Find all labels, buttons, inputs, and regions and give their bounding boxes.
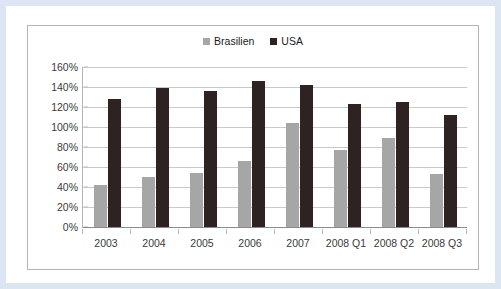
x-axis-tick-mark: [418, 229, 419, 234]
x-axis-tick-mark: [322, 229, 323, 234]
x-axis-tick-label: 2006: [238, 237, 261, 249]
bar-brasilien-2007[interactable]: [286, 123, 299, 227]
x-axis-tick-mark: [370, 229, 371, 234]
x-axis-tick-mark: [178, 229, 179, 234]
x-axis-category-label: 2007: [274, 229, 322, 249]
x-axis-category-label: 2008 Q2: [370, 229, 418, 249]
x-axis-tick-mark: [466, 229, 467, 234]
bar-group: [179, 67, 227, 227]
bar-group: [323, 67, 371, 227]
bar-group: [419, 67, 467, 227]
bar-usa-2008-Q2[interactable]: [396, 102, 409, 227]
bar-group: [227, 67, 275, 227]
x-axis-category-label: 2004: [130, 229, 178, 249]
x-axis-tick-label: 2005: [190, 237, 213, 249]
x-axis: 200320042005200620072008 Q12008 Q22008 Q…: [82, 229, 466, 249]
y-axis-tick-label: 40%: [57, 181, 78, 193]
y-axis-tick-label: 160%: [51, 61, 78, 73]
bar-usa-2004[interactable]: [156, 88, 169, 227]
bar-brasilien-2008-Q2[interactable]: [382, 138, 395, 227]
bar-usa-2005[interactable]: [204, 91, 217, 227]
x-axis-tick-label: 2008 Q1: [326, 237, 366, 249]
x-axis-category-label: 2005: [178, 229, 226, 249]
x-axis-tick-mark: [274, 229, 275, 234]
y-axis-tick-label: 60%: [57, 161, 78, 173]
x-axis-tick-label: 2008 Q3: [422, 237, 462, 249]
bar-brasilien-2008-Q3[interactable]: [430, 174, 443, 227]
x-axis-tick-mark: [226, 229, 227, 234]
x-axis-tick-mark: [82, 229, 83, 234]
bar-group: [371, 67, 419, 227]
y-axis-tick-label: 120%: [51, 101, 78, 113]
x-axis-tick-label: 2008 Q2: [374, 237, 414, 249]
x-axis-category-label: 2008 Q1: [322, 229, 370, 249]
x-axis-category-label: 2008 Q3: [418, 229, 466, 249]
plot-area: [82, 67, 467, 228]
chart-page: BrasilienUSA 0%20%40%60%80%100%120%140%1…: [0, 0, 501, 289]
y-axis-tick-label: 0%: [63, 221, 78, 233]
bar-brasilien-2008-Q1[interactable]: [334, 150, 347, 227]
x-axis-tick-label: 2007: [286, 237, 309, 249]
x-axis-tick-label: 2003: [94, 237, 117, 249]
bar-usa-2003[interactable]: [108, 99, 121, 227]
bar-brasilien-2003[interactable]: [94, 185, 107, 227]
bar-brasilien-2005[interactable]: [190, 173, 203, 227]
y-axis: 0%20%40%60%80%100%120%140%160%: [34, 63, 78, 231]
bar-series-container: [83, 67, 467, 227]
y-axis-tick-label: 20%: [57, 201, 78, 213]
y-axis-tick-label: 100%: [51, 121, 78, 133]
bar-group: [131, 67, 179, 227]
bar-group: [83, 67, 131, 227]
x-axis-tick-label: 2004: [142, 237, 165, 249]
bar-usa-2008-Q3[interactable]: [444, 115, 457, 227]
plot-wrapper: 0%20%40%60%80%100%120%140%160% 200320042…: [28, 26, 478, 269]
gridline: [83, 227, 467, 228]
bar-usa-2007[interactable]: [300, 85, 313, 227]
chart-frame: BrasilienUSA 0%20%40%60%80%100%120%140%1…: [27, 25, 479, 270]
y-axis-tick-label: 140%: [51, 81, 78, 93]
x-axis-tick-mark: [130, 229, 131, 234]
bar-usa-2006[interactable]: [252, 81, 265, 227]
bar-brasilien-2006[interactable]: [238, 161, 251, 227]
x-axis-category-label: 2006: [226, 229, 274, 249]
y-axis-tick-label: 80%: [57, 141, 78, 153]
bar-group: [275, 67, 323, 227]
bar-usa-2008-Q1[interactable]: [348, 104, 361, 227]
x-axis-category-label: 2003: [82, 229, 130, 249]
bar-brasilien-2004[interactable]: [142, 177, 155, 227]
